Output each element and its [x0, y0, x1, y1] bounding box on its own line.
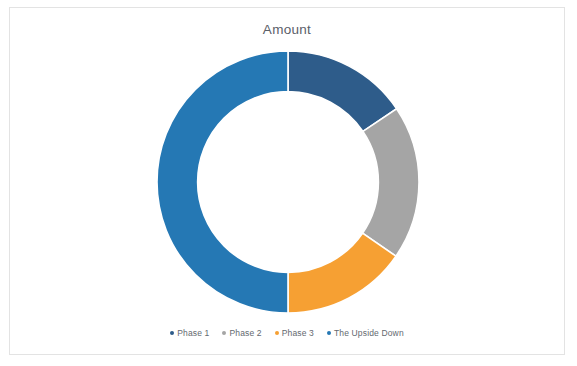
legend-marker-icon: [170, 331, 174, 335]
chart-legend: Phase 1Phase 2Phase 3The Upside Down: [10, 329, 564, 338]
legend-item[interactable]: Phase 3: [275, 329, 314, 338]
legend-item-label: Phase 3: [282, 329, 314, 338]
legend-item[interactable]: Phase 2: [222, 329, 261, 338]
doughnut-chart: [155, 49, 421, 315]
legend-marker-icon: [327, 331, 331, 335]
legend-item[interactable]: The Upside Down: [327, 329, 404, 338]
doughnut-slice-group: [157, 51, 419, 313]
legend-marker-icon: [222, 331, 226, 335]
plot-area: [10, 8, 566, 356]
doughnut-slice[interactable]: [362, 109, 419, 256]
legend-item-label: The Upside Down: [334, 329, 404, 338]
doughnut-slice[interactable]: [288, 233, 396, 313]
legend-marker-icon: [275, 331, 279, 335]
legend-item[interactable]: Phase 1: [170, 329, 209, 338]
chart-container: Amount Phase 1Phase 2Phase 3The Upside D…: [9, 7, 565, 355]
legend-item-label: Phase 2: [229, 329, 261, 338]
legend-item-label: Phase 1: [177, 329, 209, 338]
doughnut-slice[interactable]: [157, 51, 288, 313]
